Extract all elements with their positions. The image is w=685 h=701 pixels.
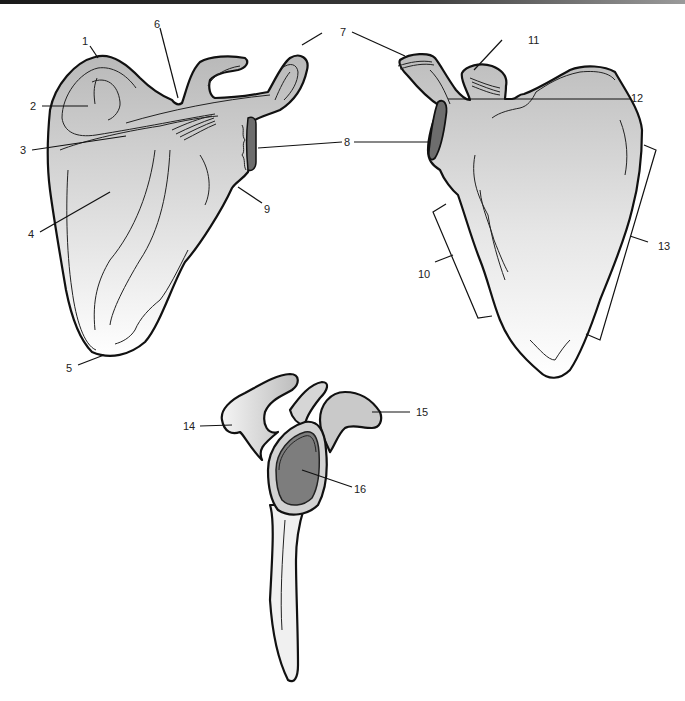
label-10: 10 (418, 268, 430, 280)
label-9: 9 (264, 203, 270, 215)
label-15: 15 (416, 406, 428, 418)
glenoid-cavity-posterior (247, 117, 257, 170)
label-6: 6 (154, 18, 160, 30)
anterior-scapula-body (399, 54, 642, 378)
label-16: 16 (354, 483, 366, 495)
label-2: 2 (30, 100, 36, 112)
label-7: 7 (340, 26, 346, 38)
scapula-diagram: 1 2 3 4 5 6 7 8 9 10 11 12 13 14 15 16 (0, 0, 685, 701)
label-4: 4 (28, 228, 34, 240)
lateral-view (222, 374, 381, 681)
label-11: 11 (528, 34, 539, 46)
label-13: 13 (658, 240, 670, 252)
label-14: 14 (183, 420, 195, 432)
label-8: 8 (344, 136, 350, 148)
label-5: 5 (66, 362, 72, 374)
label-1: 1 (82, 35, 88, 47)
lateral-blade (270, 505, 305, 681)
label-3: 3 (20, 144, 26, 156)
lateral-acromion (320, 392, 381, 452)
label-12: 12 (631, 92, 643, 104)
